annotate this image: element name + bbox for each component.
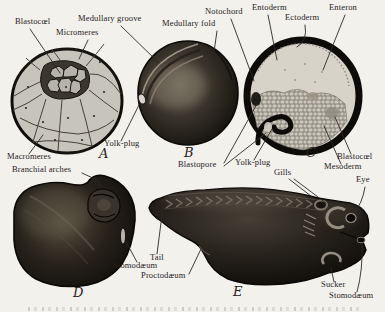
label-yolk-plug-c: Yolk-plug (235, 158, 270, 167)
embryology-plate: Blastocœl Micromeres Medullary groove Me… (0, 0, 385, 312)
label-proctodaeum: Proctodæum (141, 271, 185, 280)
panel-letter-a: A (99, 146, 108, 161)
label-micromeres: Micromeres (56, 28, 99, 37)
panel-letter-c: C (306, 145, 316, 160)
label-macromeres: Macromeres (7, 152, 51, 161)
label-stomodaeum-e: Stomodæum (329, 291, 373, 300)
label-mesoderm: Mesoderm (324, 162, 362, 171)
label-stomodaeum-d: Stomodæum (113, 261, 157, 270)
label-ectoderm: Ectoderm (285, 13, 319, 22)
label-sucker: Sucker (321, 280, 346, 289)
panel-letter-b: B (184, 145, 194, 160)
label-blastopore: Blastopore (178, 160, 216, 169)
cropped-caption-remnant (28, 307, 360, 311)
label-eye: Eye (356, 175, 370, 184)
panel-letter-d: D (73, 285, 83, 300)
label-medullary-groove: Medullary groove (78, 14, 142, 23)
label-enteron: Enteron (329, 3, 357, 12)
label-blastocoel-c: Blastocœl (337, 152, 372, 161)
panel-letter-e: E (233, 284, 243, 299)
label-notochord: Notochord (205, 7, 243, 16)
label-gills: Gills (274, 168, 291, 177)
figure-a-blastula (12, 44, 122, 153)
label-blastocoel-a: Blastocœl (15, 17, 50, 26)
label-entoderm: Entoderm (252, 3, 287, 12)
label-yolk-plug-b: Yolk-plug (104, 139, 139, 148)
label-branchial-arches: Branchial arches (12, 165, 71, 174)
label-medullary-fold: Medullary fold (162, 19, 215, 28)
